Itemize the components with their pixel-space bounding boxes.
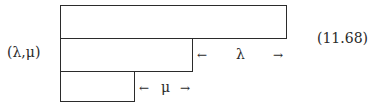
- tuple-label: (λ,μ): [7, 44, 40, 60]
- mu-left-arrow-icon: ←: [139, 82, 149, 94]
- row-2-bar: [60, 38, 193, 72]
- equation-number: (11.68): [317, 30, 368, 46]
- row-1-bar: [60, 5, 287, 39]
- lambda-symbol: λ: [236, 46, 245, 62]
- lambda-left-arrow-icon: ←: [197, 49, 207, 61]
- mu-right-arrow-icon: →: [180, 82, 190, 94]
- lambda-right-arrow-icon: →: [273, 49, 283, 61]
- row-3-bar: [60, 71, 135, 102]
- mu-symbol: μ: [161, 79, 170, 95]
